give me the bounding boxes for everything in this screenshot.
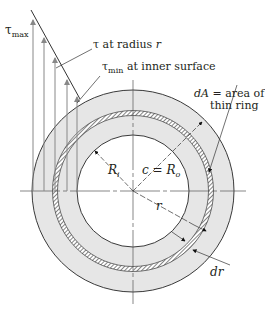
tau-min-label: τmin at inner surface: [102, 60, 216, 75]
outer-radius-label: c = Ro: [142, 163, 180, 179]
tau-max-label: τmax: [5, 23, 29, 39]
dA-label-line2: thin ring: [210, 99, 259, 112]
tau-at-radius-label: τ at radius r: [93, 38, 162, 51]
hollow-shaft-diagram: τmax τ at radius r τmin at inner surface…: [0, 0, 265, 312]
dr-label: dr: [210, 265, 225, 279]
